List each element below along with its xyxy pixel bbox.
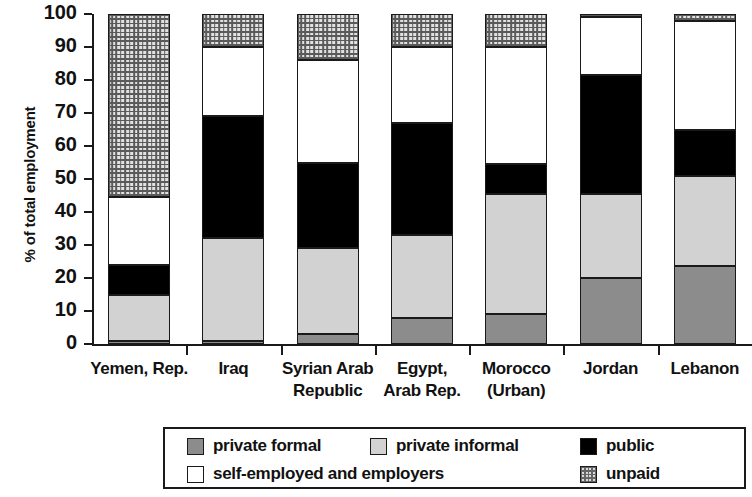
bar-segment-unpaid[interactable] — [485, 14, 547, 47]
bar-segment-unpaid[interactable] — [391, 14, 453, 47]
legend-item-private-formal[interactable]: private formal — [187, 432, 321, 460]
bar-segment-private-informal[interactable] — [674, 176, 736, 267]
x-label-line-1: Jordan — [583, 359, 638, 378]
legend-swatch-self-employed — [187, 466, 204, 483]
y-tick-label: 40 — [55, 200, 77, 220]
bar-segment-self-employed[interactable] — [580, 17, 642, 75]
bar-segment-private-informal[interactable] — [391, 235, 453, 318]
x-tick — [281, 346, 283, 355]
bar-segment-private-formal[interactable] — [297, 334, 359, 344]
legend-swatch-private-formal — [187, 438, 204, 455]
x-label-line-1: Yemen, Rep. — [90, 359, 188, 378]
y-tick-70: 70 — [84, 112, 92, 114]
x-label-morocco-urban: Morocco(Urban) — [466, 358, 566, 402]
legend-label-unpaid: unpaid — [606, 464, 660, 484]
x-label-iraq: Iraq — [183, 358, 283, 380]
x-label-line-2: Republic — [278, 380, 378, 402]
y-tick-label: 50 — [55, 167, 77, 187]
legend-row-bottom: self-employed and employersunpaid — [165, 460, 744, 488]
bar-segment-private-informal[interactable] — [108, 295, 170, 341]
y-tick-10: 10 — [84, 310, 92, 312]
bar-segment-public[interactable] — [580, 75, 642, 194]
bar-segment-self-employed[interactable] — [108, 197, 170, 265]
x-axis-labels: Yemen, Rep.IraqSyrian ArabRepublicEgypt,… — [92, 358, 752, 414]
x-tick — [658, 346, 660, 355]
legend-swatch-private-informal — [370, 438, 387, 455]
x-label-lebanon: Lebanon — [655, 358, 752, 380]
x-tick — [469, 346, 471, 355]
bar-segment-private-formal[interactable] — [580, 278, 642, 344]
chart-legend: private formalprivate informalpublic sel… — [163, 427, 746, 489]
bar-segment-private-formal[interactable] — [674, 266, 736, 344]
legend-item-private-informal[interactable]: private informal — [370, 432, 519, 460]
bar-segment-private-informal[interactable] — [297, 248, 359, 334]
bar-segment-public[interactable] — [674, 130, 736, 176]
bar-segment-self-employed[interactable] — [202, 47, 264, 116]
y-tick-0: 0 — [84, 343, 92, 345]
y-tick-20: 20 — [84, 277, 92, 279]
x-label-yemen-rep: Yemen, Rep. — [89, 358, 189, 380]
plot-area: 0102030405060708090100 — [92, 14, 752, 346]
y-axis-line — [92, 14, 94, 346]
bar-segment-private-formal[interactable] — [485, 314, 547, 344]
x-label-jordan: Jordan — [561, 358, 661, 380]
bar-segment-unpaid[interactable] — [108, 14, 170, 197]
y-tick-60: 60 — [84, 145, 92, 147]
bar-segment-public[interactable] — [202, 116, 264, 238]
y-tick-40: 40 — [84, 211, 92, 213]
y-tick-label: 80 — [55, 68, 77, 88]
legend-label-private-formal: private formal — [213, 436, 321, 456]
legend-item-self-employed[interactable]: self-employed and employers — [187, 460, 444, 488]
y-tick-label: 70 — [55, 101, 77, 121]
bar-lebanon[interactable] — [674, 14, 736, 344]
y-tick-label: 60 — [55, 134, 77, 154]
legend-swatch-unpaid — [580, 466, 597, 483]
y-axis-label: % of total employment — [21, 60, 38, 310]
bar-segment-private-formal[interactable] — [108, 341, 170, 344]
bar-segment-public[interactable] — [485, 164, 547, 194]
legend-item-unpaid[interactable]: unpaid — [580, 460, 660, 488]
bar-segment-self-employed[interactable] — [297, 60, 359, 162]
bar-syrian-arab-republic[interactable] — [297, 14, 359, 344]
y-tick-30: 30 — [84, 244, 92, 246]
bar-segment-self-employed[interactable] — [485, 47, 547, 164]
bar-iraq[interactable] — [202, 14, 264, 344]
bar-segment-private-informal[interactable] — [485, 194, 547, 314]
bar-segment-private-informal[interactable] — [580, 194, 642, 278]
x-tick — [375, 346, 377, 355]
stacked-bar-chart: % of total employment 010203040506070809… — [0, 0, 752, 497]
legend-item-public[interactable]: public — [580, 432, 654, 460]
bar-segment-unpaid[interactable] — [580, 14, 642, 17]
bar-segment-public[interactable] — [391, 123, 453, 235]
bar-segment-unpaid[interactable] — [674, 14, 736, 21]
x-label-line-1: Egypt, — [397, 359, 447, 378]
bar-segment-unpaid[interactable] — [202, 14, 264, 47]
x-label-line-1: Morocco — [482, 359, 551, 378]
legend-label-private-informal: private informal — [396, 436, 519, 456]
x-label-line-2: Arab Rep. — [372, 380, 472, 402]
bar-segment-private-informal[interactable] — [202, 238, 264, 340]
bar-segment-public[interactable] — [297, 163, 359, 249]
bar-segment-public[interactable] — [108, 265, 170, 295]
legend-label-public: public — [606, 436, 654, 456]
y-tick-label: 10 — [55, 299, 77, 319]
y-tick-label: 20 — [55, 266, 77, 286]
y-tick-label: 100 — [44, 2, 77, 22]
bar-morocco-urban[interactable] — [485, 14, 547, 344]
bar-segment-private-formal[interactable] — [202, 341, 264, 344]
legend-label-self-employed: self-employed and employers — [213, 464, 444, 484]
bar-segment-self-employed[interactable] — [391, 47, 453, 123]
legend-row-top: private formalprivate informalpublic — [165, 432, 744, 460]
bar-segment-unpaid[interactable] — [297, 14, 359, 60]
bar-segment-self-employed[interactable] — [674, 21, 736, 130]
bar-egypt-arab-rep[interactable] — [391, 14, 453, 344]
x-tick — [186, 346, 188, 355]
y-tick-label: 0 — [66, 332, 77, 352]
x-label-egypt-arab-rep: Egypt,Arab Rep. — [372, 358, 472, 402]
bar-jordan[interactable] — [580, 14, 642, 344]
bar-yemen-rep[interactable] — [108, 14, 170, 344]
legend-swatch-public — [580, 438, 597, 455]
bar-segment-private-formal[interactable] — [391, 318, 453, 344]
x-tick — [563, 346, 565, 355]
x-label-line-1: Iraq — [218, 359, 248, 378]
